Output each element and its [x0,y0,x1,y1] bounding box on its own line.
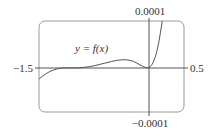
curve-label: y = f(x) [74,42,108,55]
y-min-label: −0.0001 [132,117,168,129]
x-max-label: 0.5 [190,62,204,74]
x-min-label: −1.5 [13,62,33,74]
chart-canvas: −1.5 0.5 0.0001 −0.0001 y = f(x) [0,0,213,134]
plot-frame [39,21,184,112]
y-max-label: 0.0001 [135,5,165,17]
